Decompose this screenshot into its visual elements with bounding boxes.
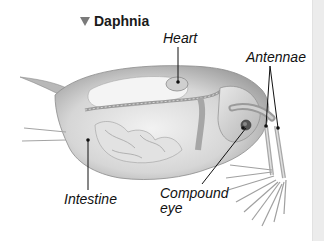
label-antennae: Antennae: [246, 50, 306, 65]
label-compound-eye: Compound eye: [160, 186, 229, 216]
antennae-bristles: [226, 165, 286, 226]
heart-shape: [166, 77, 188, 91]
triangle-down-icon: [80, 17, 90, 26]
label-intestine: Intestine: [64, 192, 117, 207]
figure-title-text: Daphnia: [94, 13, 149, 29]
label-compound-eye-line1: Compound: [160, 186, 229, 201]
label-heart: Heart: [163, 31, 197, 46]
figure-title: Daphnia: [80, 13, 149, 29]
label-compound-eye-line2: eye: [160, 201, 229, 216]
page-edge-strip: [312, 0, 324, 241]
daphnia-illustration: [0, 0, 312, 241]
figure-page: Daphnia Heart Antennae Intestine Compoun…: [0, 0, 312, 241]
